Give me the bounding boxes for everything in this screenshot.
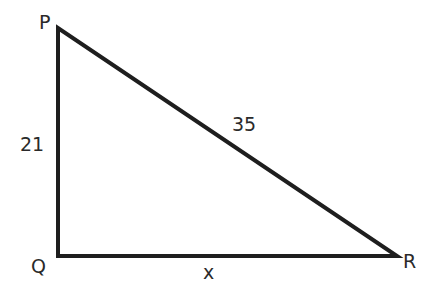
side-label-qr: x (203, 261, 214, 283)
vertex-label-q: Q (31, 255, 46, 277)
triangle-diagram: P Q R 21 35 x (0, 0, 428, 292)
side-label-pr: 35 (232, 113, 256, 135)
side-label-pq: 21 (20, 133, 44, 155)
triangle-pqr (58, 28, 397, 256)
vertex-label-r: R (403, 250, 416, 272)
vertex-label-p: P (39, 11, 50, 33)
